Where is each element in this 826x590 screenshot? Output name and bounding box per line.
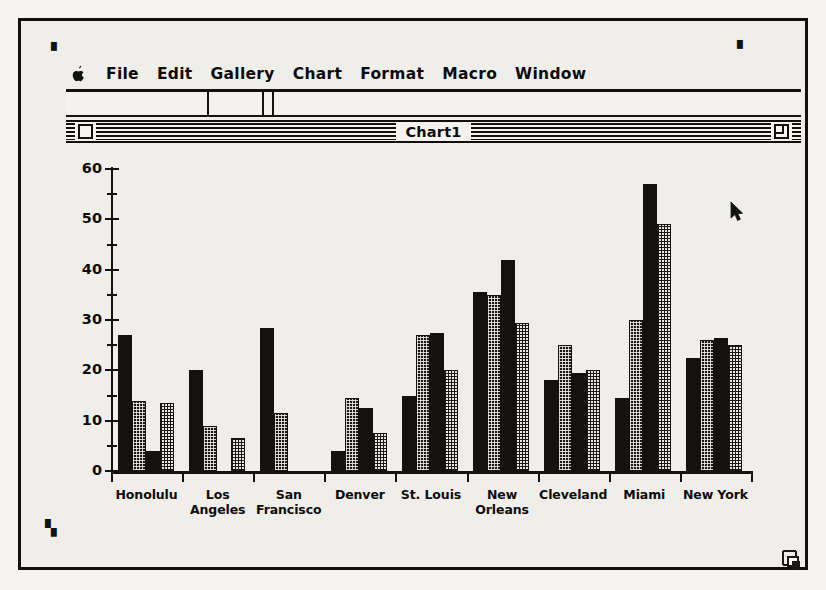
macro-menu[interactable]: Macro (433, 65, 506, 83)
title-stripes-left-edge (66, 123, 75, 140)
bar-2-group-5[interactable] (416, 335, 430, 471)
plot-area (111, 169, 751, 471)
bar-3-group-4[interactable] (359, 408, 373, 471)
bar-1-group-4[interactable] (331, 451, 345, 471)
file-menu[interactable]: File (97, 65, 148, 83)
x-tick-4 (395, 474, 397, 482)
x-axis-label-9: New York (672, 487, 759, 502)
y-tick-40 (105, 269, 119, 271)
bar-2-group-2[interactable] (203, 426, 217, 471)
title-stripes-left (96, 123, 396, 140)
y-tick-10 (105, 420, 119, 422)
bar-3-group-9[interactable] (714, 338, 728, 471)
bar-4-group-7[interactable] (586, 370, 600, 471)
bar-4-group-8[interactable] (657, 224, 671, 471)
y-tick-minor-25 (107, 344, 117, 346)
y-axis-label-60: 60 (66, 160, 102, 176)
bar-1-group-7[interactable] (544, 380, 558, 471)
x-tick-end (751, 474, 753, 482)
y-tick-50 (105, 218, 119, 220)
band-rule (66, 115, 801, 117)
gallery-menu[interactable]: Gallery (202, 65, 284, 83)
x-tick-2 (253, 474, 255, 482)
y-tick-60 (105, 168, 119, 170)
bar-3-group-8[interactable] (643, 184, 657, 471)
bar-2-group-3[interactable] (274, 413, 288, 471)
screenshot-root: ▗ ▖ ▚ FileEditGalleryChartFormatMacroWin… (0, 0, 826, 590)
bar-4-group-6[interactable] (515, 323, 529, 471)
y-axis-label-10: 10 (66, 412, 102, 428)
x-axis-line (111, 471, 753, 474)
bar-1-group-2[interactable] (189, 370, 203, 471)
bar-1-group-8[interactable] (615, 398, 629, 471)
x-tick-3 (324, 474, 326, 482)
menu-bar: FileEditGalleryChartFormatMacroWindow (68, 61, 799, 87)
edit-menu[interactable]: Edit (148, 65, 202, 83)
bar-2-group-6[interactable] (487, 295, 501, 471)
y-axis-label-30: 30 (66, 311, 102, 327)
bar-1-group-1[interactable] (118, 335, 132, 471)
x-tick-8 (680, 474, 682, 482)
scanned-page-frame: ▗ ▖ ▚ FileEditGalleryChartFormatMacroWin… (18, 18, 808, 570)
x-tick-6 (538, 474, 540, 482)
bar-2-group-9[interactable] (700, 340, 714, 471)
bar-3-group-7[interactable] (572, 373, 586, 471)
y-axis-label-50: 50 (66, 210, 102, 226)
y-axis-label-40: 40 (66, 261, 102, 277)
band-tick-3 (272, 92, 274, 115)
bar-4-group-5[interactable] (444, 370, 458, 471)
y-tick-minor-45 (107, 244, 117, 246)
y-tick-minor-35 (107, 294, 117, 296)
bar-2-group-7[interactable] (558, 345, 572, 471)
y-tick-20 (105, 369, 119, 371)
registration-mark-top-left: ▗ (45, 37, 56, 48)
grow-box[interactable] (781, 549, 805, 573)
bar-2-group-4[interactable] (345, 398, 359, 471)
bar-2-group-8[interactable] (629, 320, 643, 471)
y-axis-label-20: 20 (66, 361, 102, 377)
title-stripes-right (471, 123, 771, 140)
y-tick-0 (105, 470, 119, 472)
y-tick-30 (105, 319, 119, 321)
window-title: Chart1 (396, 124, 470, 140)
bar-1-group-9[interactable] (686, 358, 700, 471)
bar-3-group-6[interactable] (501, 260, 515, 471)
zoom-box[interactable] (774, 124, 789, 139)
bar-4-group-1[interactable] (160, 403, 174, 471)
bar-3-group-5[interactable] (430, 333, 444, 471)
x-tick-7 (609, 474, 611, 482)
band-tick-1 (207, 92, 209, 115)
x-tick-1 (182, 474, 184, 482)
x-tick-0 (111, 474, 113, 482)
bar-4-group-2[interactable] (231, 438, 245, 471)
band-tick-2 (262, 92, 264, 115)
bar-1-group-5[interactable] (402, 396, 416, 472)
title-stripes-right-edge (792, 123, 801, 140)
registration-mark-bottom-left: ▚ (45, 523, 56, 534)
bar-3-group-1[interactable] (146, 451, 160, 471)
bar-4-group-4[interactable] (373, 433, 387, 471)
format-menu[interactable]: Format (351, 65, 433, 83)
close-box[interactable] (78, 124, 93, 139)
window-title-bar[interactable]: Chart1 (66, 120, 801, 143)
x-tick-5 (467, 474, 469, 482)
registration-mark-top-right: ▖ (737, 35, 748, 46)
bar-2-group-1[interactable] (132, 401, 146, 471)
bar-1-group-3[interactable] (260, 328, 274, 471)
bar-1-group-6[interactable] (473, 292, 487, 471)
menu-band (66, 92, 801, 115)
chart-canvas[interactable]: 0102030405060HonoluluLos AngelesSan Fran… (66, 147, 801, 567)
chart-menu[interactable]: Chart (284, 65, 351, 83)
y-tick-minor-5 (107, 445, 117, 447)
y-tick-minor-15 (107, 395, 117, 397)
window-menu[interactable]: Window (506, 65, 595, 83)
y-axis-label-0: 0 (66, 462, 102, 478)
bar-4-group-9[interactable] (728, 345, 742, 471)
apple-menu[interactable] (68, 65, 97, 82)
y-tick-minor-55 (107, 193, 117, 195)
